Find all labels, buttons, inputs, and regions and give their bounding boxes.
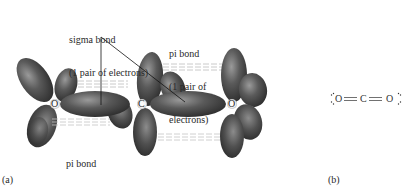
lewis-structure: O C O xyxy=(330,92,402,106)
sigma-bond-label: sigma bond (1 pair of electrons) xyxy=(69,12,148,89)
pi-bond-bottom-title: pi bond xyxy=(66,158,105,169)
lewis-oxygen-left: O xyxy=(335,93,342,104)
pi-bond-top-detail-2: electrons) xyxy=(169,114,208,125)
atom-carbon: C xyxy=(138,98,145,109)
lewis-oxygen-right: O xyxy=(386,93,393,104)
panel-b-label: (b) xyxy=(328,174,340,185)
sigma-bond-title: sigma bond xyxy=(69,34,148,45)
pi-bond-bottom-label: pi bond (1 pair of electrons) xyxy=(66,136,105,190)
pi-bond-top-label: pi bond (1 pair of electrons) xyxy=(169,26,208,136)
panel-a-label: (a) xyxy=(2,174,13,185)
atom-oxygen-right: O xyxy=(228,98,235,109)
lewis-carbon: C xyxy=(360,93,367,104)
atom-oxygen-left: O xyxy=(51,98,58,109)
sigma-bond-detail: (1 pair of electrons) xyxy=(69,67,148,78)
pi-bond-top-title: pi bond xyxy=(169,48,208,59)
pi-bond-top-detail-1: (1 pair of xyxy=(169,81,208,92)
